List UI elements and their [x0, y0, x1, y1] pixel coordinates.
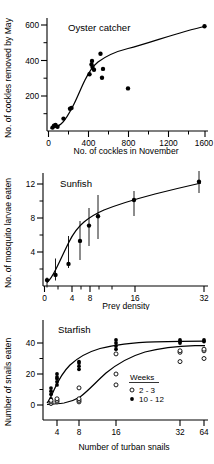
y-tick-4: 4: [30, 247, 35, 257]
sunfish-plot: No. of mosquito larvae eaten 12 8 4 0 4: [0, 155, 214, 310]
panel-title-starfish: Starfish: [58, 324, 91, 335]
y-axis-ticks: 12 8 4: [26, 179, 43, 269]
legend: Weeks 2 - 3 10 - 12: [129, 373, 164, 404]
y-tick-600: 600: [25, 20, 39, 30]
y-axis-ticks: 40 20 0: [26, 338, 43, 410]
y-tick-12: 12: [26, 179, 36, 189]
x-tick-4: 4: [70, 293, 75, 303]
legend-marker-filled-circle: [130, 397, 134, 401]
panel-title-oyster-catcher: Oyster catcher: [68, 22, 131, 33]
x-tick-32: 32: [175, 427, 185, 437]
x-axis-label: Prey density: [102, 301, 150, 310]
x-axis-label: Number of turban snails: [78, 442, 169, 452]
y-tick-20: 20: [26, 369, 36, 379]
x-tick-32: 32: [199, 293, 209, 303]
data-points-2-3: [49, 347, 206, 405]
panel-title-sunfish: Sunfish: [60, 178, 92, 189]
starfish-plot: Number of snails eaten 40 20 0 4 8 16: [0, 310, 214, 464]
x-axis-label: No. of cockles in November: [73, 146, 178, 155]
x-tick-8: 8: [77, 427, 82, 437]
y-tick-0: 0: [30, 400, 35, 410]
x-tick-64: 64: [199, 427, 209, 437]
legend-marker-open-circle: [130, 388, 134, 392]
fitted-curve: [47, 183, 201, 283]
x-tick-8: 8: [88, 293, 93, 303]
panel-oyster-catcher: No. of cockles removed by May 600 400 20…: [0, 0, 214, 155]
y-axis-label: No. of cockles removed by May: [3, 17, 13, 138]
y-tick-400: 400: [25, 56, 39, 66]
x-tick-0: 0: [42, 293, 47, 303]
y-tick-8: 8: [30, 213, 35, 223]
fitted-curve: [51, 27, 206, 129]
x-tick-4: 4: [55, 427, 60, 437]
data-points-10-12: [49, 338, 206, 401]
y-tick-40: 40: [26, 338, 36, 348]
data-points: [50, 24, 206, 130]
legend-label-2-3: 2 - 3: [139, 386, 156, 395]
y-tick-200: 200: [25, 91, 39, 101]
y-axis-label: No. of mosquito larvae eaten: [3, 178, 13, 288]
panel-starfish: Number of snails eaten 40 20 0 4 8 16: [0, 310, 214, 464]
legend-label-10-12: 10 - 12: [139, 395, 164, 404]
x-tick-0: 0: [46, 138, 51, 148]
x-tick-1600: 1600: [195, 138, 214, 148]
y-axis-label: Number of snails eaten: [3, 338, 13, 427]
x-axis-ticks: 4 8 16 32 64: [55, 420, 209, 437]
x-tick-16: 16: [111, 427, 121, 437]
oyster-catcher-plot: No. of cockles removed by May 600 400 20…: [0, 0, 214, 155]
figure-container: No. of cockles removed by May 600 400 20…: [0, 0, 214, 464]
panel-sunfish: No. of mosquito larvae eaten 12 8 4 0 4: [0, 155, 214, 310]
y-axis-ticks: 600 400 200: [25, 20, 47, 114]
legend-title: Weeks: [130, 373, 154, 382]
